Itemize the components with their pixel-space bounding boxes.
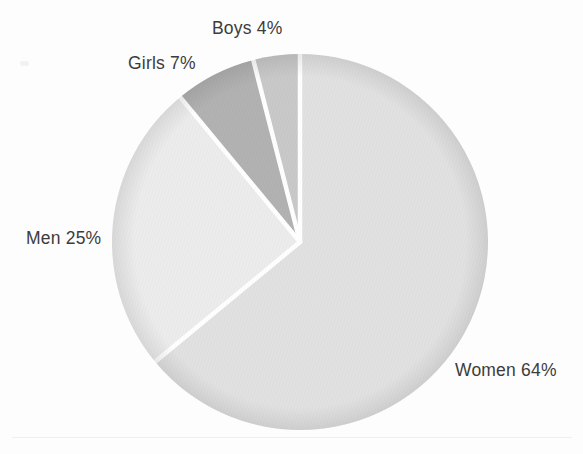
scan-artifact-line	[12, 437, 572, 438]
pie-paper-texture	[112, 54, 488, 430]
scan-artifact-speck	[20, 61, 29, 66]
pie-label-girls: Girls 7%	[128, 55, 196, 73]
pie-label-boys: Boys 4%	[212, 20, 282, 38]
pie-label-women: Women 64%	[455, 362, 557, 380]
pie-chart: Boys 4% Girls 7% Men 25% Women 64%	[0, 0, 583, 454]
pie-label-men: Men 25%	[26, 230, 101, 248]
pie-chart-graphic	[0, 0, 583, 454]
